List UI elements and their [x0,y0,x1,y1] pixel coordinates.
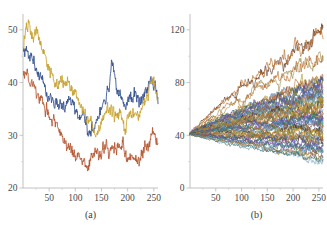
x-tick-label: 150 [94,193,109,203]
x-tick-label: 100 [234,193,249,203]
x-tick-label: 250 [312,193,326,203]
figure-root: 2030405050100150200250(a) 04080120501001… [0,0,327,225]
x-tick-label: 200 [121,193,136,203]
panel-a-plot: 2030405050100150200250(a) [0,0,163,225]
y-tick-label: 30 [8,131,18,141]
x-tick-label: 250 [147,193,162,203]
y-tick-label: 50 [8,25,18,35]
y-tick-label: 0 [180,183,185,193]
y-tick-label: 40 [8,78,18,88]
panel-b-plot: 0408012050100150200250(b) [163,0,326,225]
y-tick-label: 120 [170,25,185,35]
panel-b: 0408012050100150200250(b) [163,0,326,225]
panel-caption: (b) [251,209,263,221]
x-tick-label: 100 [68,193,83,203]
panel-a: 2030405050100150200250(a) [0,0,163,225]
x-tick-label: 50 [211,193,221,203]
series-bundle [190,24,323,165]
x-tick-label: 150 [260,193,275,203]
panel-caption: (a) [85,209,96,221]
y-tick-label: 80 [175,78,185,88]
x-tick-label: 50 [44,193,54,203]
y-tick-label: 40 [175,131,185,141]
y-tick-label: 20 [8,183,18,193]
series-line-2 [24,20,158,137]
series-line-1 [24,46,158,136]
x-tick-label: 200 [286,193,301,203]
